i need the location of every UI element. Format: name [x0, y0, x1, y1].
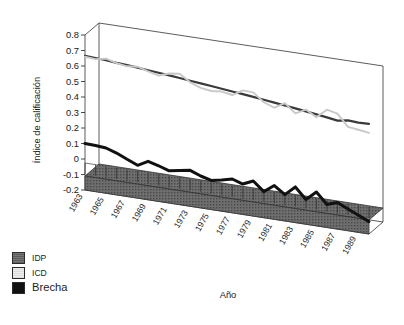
x-tick-label: 1971 [151, 205, 169, 227]
y-tick-label: 0.6 [66, 61, 79, 71]
x-tick-label: 1975 [193, 211, 211, 233]
x-tick-label: 1979 [235, 218, 253, 240]
y-tick-label: 0.7 [66, 46, 79, 56]
legend-item-idp: IDP [12, 252, 67, 264]
chart-figure: 0.80.70.60.50.40.30.20.10-0.1-0.2 196319… [0, 0, 404, 325]
x-tick-label: 1967 [109, 198, 127, 220]
legend-item-icd: ICD [12, 267, 67, 279]
chart-legend: IDP ICD Brecha [12, 252, 67, 297]
y-tick-label: 0.1 [66, 139, 79, 149]
legend-item-brecha: Brecha [12, 282, 67, 294]
y-axis: 0.80.70.60.50.40.30.20.10-0.1-0.2 [63, 30, 85, 195]
y-tick-label: 0.5 [66, 77, 79, 87]
x-axis-title: Año [220, 289, 237, 300]
legend-swatch-idp [12, 252, 25, 264]
y-tick-label: 0.3 [66, 108, 79, 118]
y-tick-label: 0.4 [66, 92, 79, 102]
x-tick-label: 1981 [256, 221, 274, 243]
x-tick-label: 1987 [319, 231, 337, 253]
y-tick-label: 0 [74, 154, 79, 164]
x-tick-label: 1969 [130, 202, 148, 224]
x-tick-label: 1973 [172, 208, 190, 230]
legend-label-icd: ICD [32, 269, 47, 278]
x-tick-label: 1965 [88, 195, 106, 217]
x-tick-label: 1977 [214, 215, 232, 237]
legend-label-brecha: Brecha [32, 282, 67, 293]
x-tick-label: 1983 [277, 224, 295, 246]
y-tick-label: 0.8 [66, 30, 79, 40]
x-tick-label: 1985 [298, 228, 316, 250]
x-tick-label: 1989 [340, 234, 358, 256]
y-tick-label: -0.1 [63, 170, 79, 180]
legend-label-idp: IDP [32, 254, 46, 263]
y-axis-title: Índice de calificación [31, 77, 42, 164]
y-tick-label: 0.2 [66, 123, 79, 133]
series-line-icd [85, 57, 369, 133]
legend-swatch-icd [12, 267, 25, 279]
legend-swatch-brecha [12, 282, 25, 294]
